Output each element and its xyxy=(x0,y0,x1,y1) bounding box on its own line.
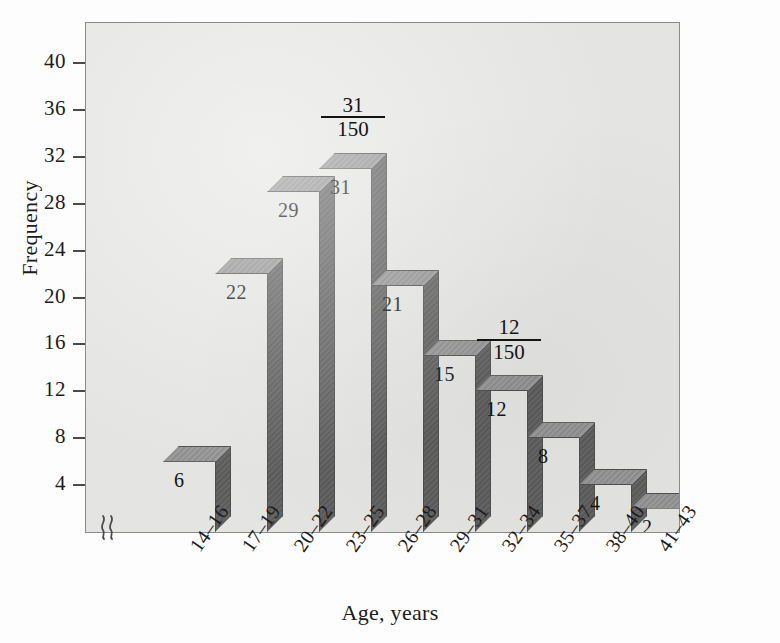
fraction-numerator: 12 xyxy=(477,317,541,338)
x-axis-title: Age, years xyxy=(0,600,780,626)
fraction-denominator: 150 xyxy=(477,339,541,363)
bar-value-label: 31 xyxy=(330,176,351,199)
y-tick-label: 24 xyxy=(26,237,66,262)
fraction-annotation-32–34: 12150 xyxy=(477,317,541,363)
bar-value-label: 15 xyxy=(434,363,455,386)
y-tick-label: 16 xyxy=(26,330,66,355)
fraction-denominator: 150 xyxy=(321,116,385,140)
y-tick-label: 40 xyxy=(26,49,66,74)
fraction-numerator: 31 xyxy=(321,95,385,116)
y-tick-label: 32 xyxy=(26,143,66,168)
histogram-figure: Frequency 403632282420161284 62229312115… xyxy=(0,0,780,643)
bar-value-label: 6 xyxy=(174,469,184,492)
y-tick-label: 20 xyxy=(26,284,66,309)
bar-17–19[interactable] xyxy=(215,274,267,532)
y-tick-label: 36 xyxy=(26,96,66,121)
y-tick-label: 4 xyxy=(26,471,66,496)
bar-value-label: 22 xyxy=(226,281,247,304)
bar-20–22[interactable] xyxy=(267,192,319,532)
bar-value-label: 12 xyxy=(486,398,507,421)
bar-value-label: 21 xyxy=(382,293,403,316)
bar-value-label: 8 xyxy=(538,445,548,468)
bar-26–28[interactable] xyxy=(371,286,423,532)
axis-break-icon xyxy=(96,512,122,542)
fraction-annotation-23–25: 31150 xyxy=(321,95,385,141)
y-tick-label: 8 xyxy=(26,424,66,449)
bar-23–25[interactable] xyxy=(319,169,371,532)
y-tick-label: 28 xyxy=(26,190,66,215)
bar-value-label: 29 xyxy=(278,199,299,222)
y-tick-label: 12 xyxy=(26,377,66,402)
